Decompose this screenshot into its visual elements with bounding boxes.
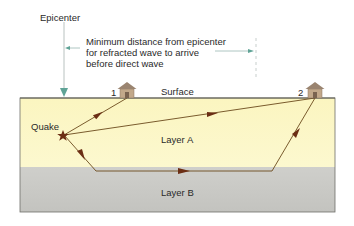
layer-a-label: Layer A (161, 134, 193, 145)
surface-label: Surface (161, 86, 194, 97)
quake-label: Quake (31, 121, 59, 132)
station-2-house-icon (306, 82, 325, 98)
epicenter-arrowhead-icon (60, 88, 68, 97)
min-distance-label-line-1: Minimum distance from epicenter (86, 36, 226, 47)
epicenter-label: Epicenter (40, 12, 80, 23)
layer-a (20, 98, 335, 167)
station-1-label: 1 (111, 87, 116, 98)
min-distance-label-line-3: before direct wave (86, 58, 164, 69)
min-distance-left-arrowhead-icon (65, 46, 70, 50)
min-distance-right-arrowhead-icon (248, 49, 254, 53)
station-1-house-icon (118, 82, 137, 98)
min-distance-label-line-2: for refracted wave to arrive (86, 47, 199, 58)
station-2-label: 2 (298, 87, 303, 98)
layer-b-label: Layer B (161, 187, 194, 198)
